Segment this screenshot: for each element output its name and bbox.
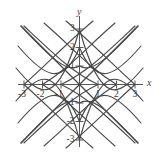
x-axis-label: x [147,78,151,88]
y-tick-label--1: -1 [67,98,75,108]
plot-canvas [0,0,160,152]
x-tick-label--2: -2 [37,90,45,100]
y-tick-label-2: 2 [70,43,75,53]
y-axis-label: y [77,7,81,17]
x-tick-label-1: 1 [96,90,101,100]
x-tick-label-3: 3 [133,90,138,100]
y-tick-label--3: -3 [67,135,75,145]
hyperbola-figure: -3 -2 -1 1 2 3 3 2 1 -1 -2 -3 y x [0,0,160,152]
x-tick-label-2: 2 [114,90,119,100]
x-tick-label--1: -1 [55,90,63,100]
y-tick-label-1: 1 [70,61,75,71]
y-tick-label-3: 3 [70,24,75,34]
x-tick-label--3: -3 [18,90,26,100]
y-tick-label--2: -2 [67,117,75,127]
